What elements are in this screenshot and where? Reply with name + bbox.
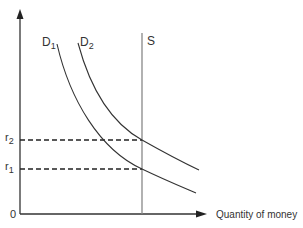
d1-label: D1: [42, 35, 56, 51]
origin-label: 0: [10, 208, 16, 220]
x-axis-arrow-icon: [196, 211, 207, 218]
x-axis-label: Quantity of money: [216, 209, 297, 220]
d2-label: D2: [80, 35, 94, 51]
s-label: S: [147, 34, 155, 48]
r1-label: r1: [5, 160, 14, 175]
y-axis: [17, 9, 24, 214]
demand-curve-d1: [57, 44, 196, 193]
x-axis: [20, 211, 207, 218]
y-axis-arrow-icon: [17, 9, 24, 19]
r2-label: r2: [5, 131, 14, 146]
money-market-diagram: D1 D2 S r2 r1 0 Quantity of money: [0, 0, 303, 228]
demand-curve-d2: [78, 43, 199, 170]
